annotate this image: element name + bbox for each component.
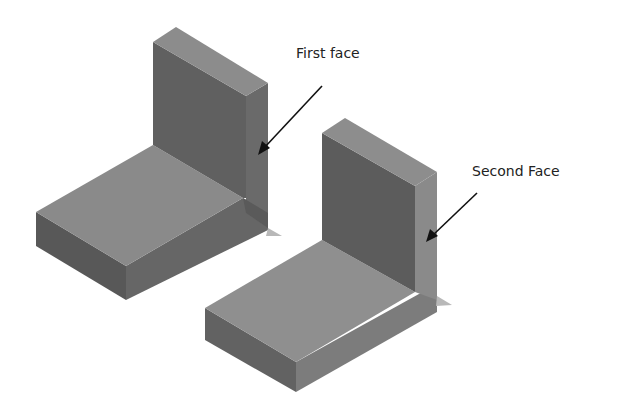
first-arrow-line [264, 86, 322, 148]
first-origin-marker [266, 228, 282, 236]
second-face-label: Second Face [472, 163, 560, 179]
first-bracket [36, 27, 282, 300]
diagram-canvas [0, 0, 620, 418]
first-face-label: First face [296, 45, 360, 61]
second-arrow-line [432, 193, 477, 236]
second-origin-marker [436, 296, 452, 306]
